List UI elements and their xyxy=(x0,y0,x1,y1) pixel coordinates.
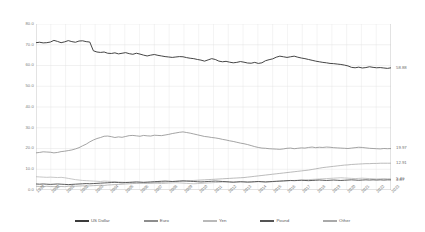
end-value-label: 12.91 xyxy=(396,161,407,165)
legend-label: Yen xyxy=(219,219,226,223)
legend-label: Pound xyxy=(276,219,289,223)
y-axis-tick-label: 50.0 xyxy=(8,84,34,88)
legend-label: US Dollar xyxy=(91,219,110,223)
legend-label: Euro xyxy=(160,219,169,223)
x-axis-tick-label: 2016 xyxy=(287,184,297,194)
y-axis-tick-label: 70.0 xyxy=(8,43,34,47)
y-axis-tick-label: 0.0 xyxy=(8,188,34,192)
y-axis-tick-label: 40.0 xyxy=(8,105,34,109)
y-axis-tick-label: 10.0 xyxy=(8,167,34,171)
end-value-label: 4.87 xyxy=(396,178,404,182)
legend-item-yen[interactable]: Yen xyxy=(203,219,226,223)
end-value-label: 58.88 xyxy=(396,66,407,70)
plot-area xyxy=(36,24,391,190)
legend-color-swatch xyxy=(203,220,217,222)
legend-color-swatch xyxy=(144,220,158,222)
chart-legend: US DollarEuroYenPoundOther xyxy=(0,214,425,228)
legend-item-euro[interactable]: Euro xyxy=(144,219,169,223)
legend-item-other[interactable]: Other xyxy=(323,219,350,223)
y-axis-tick-label: 30.0 xyxy=(8,126,34,130)
legend-label: Other xyxy=(339,219,350,223)
currency-composition-line-chart: 0.010.020.030.040.050.060.070.080.0 1999… xyxy=(0,0,425,232)
y-axis-tick-label: 60.0 xyxy=(8,63,34,67)
legend-item-us-dollar[interactable]: US Dollar xyxy=(75,219,110,223)
legend-color-swatch xyxy=(75,220,89,222)
x-axis: 1999200020012002200320042005200620072008… xyxy=(36,190,391,212)
legend-color-swatch xyxy=(260,220,274,222)
y-axis-tick-label: 20.0 xyxy=(8,146,34,150)
series-end-value-labels: 58.8819.9712.915.404.87 xyxy=(393,24,425,190)
legend-color-swatch xyxy=(323,220,337,222)
x-axis-tick-label: 2002 xyxy=(80,184,90,194)
legend-item-pound[interactable]: Pound xyxy=(260,219,289,223)
end-value-label: 19.97 xyxy=(396,146,407,150)
y-axis-tick-label: 80.0 xyxy=(8,22,34,26)
y-axis: 0.010.020.030.040.050.060.070.080.0 xyxy=(4,24,34,190)
plot-svg xyxy=(36,24,391,190)
x-axis-tick-label: 2021 xyxy=(361,184,371,194)
